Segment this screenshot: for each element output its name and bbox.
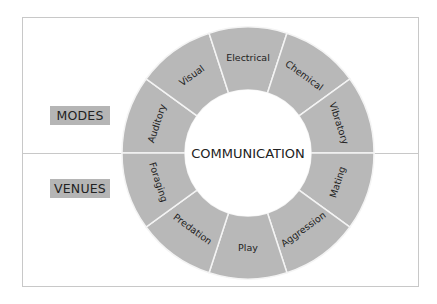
center-label: COMMUNICATION [191, 146, 305, 161]
segment-label-play: Play [238, 242, 258, 253]
communication-ring: AuditoryVisualElectricalChemicalVibrator… [0, 0, 437, 304]
segment-label-electrical: Electrical [226, 52, 270, 63]
modes-label: MODES [50, 106, 110, 125]
venues-label: VENUES [50, 179, 110, 198]
